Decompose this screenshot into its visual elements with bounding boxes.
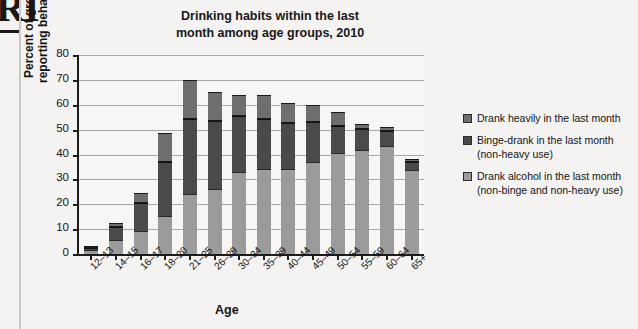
bar-segment-drank-heavily xyxy=(134,193,148,203)
bar-segment-drank-heavily xyxy=(183,80,197,118)
bar-series-layer xyxy=(79,55,424,254)
legend-label-line-2: (non-binge and non-heavy use) xyxy=(477,184,623,197)
page-root: RI Drinking habits within the last month… xyxy=(0,0,638,329)
y-tick-label: 40 xyxy=(56,147,69,159)
y-axis-title-line-2: reporting behavior xyxy=(36,0,50,95)
bar-group xyxy=(227,55,252,254)
legend-item[interactable]: Drank alcohol in the last month(non-bing… xyxy=(463,170,635,197)
bar-segment-drank-alcohol xyxy=(208,189,222,254)
bar-segment-binge-drank xyxy=(84,248,98,250)
bar-group xyxy=(178,55,203,254)
y-tick-mark xyxy=(73,254,79,256)
bar-group xyxy=(104,55,129,254)
y-tick-label: 60 xyxy=(56,97,69,109)
legend-label-line-1: Drank heavily in the last month xyxy=(477,112,621,125)
bar-segment-binge-drank xyxy=(232,116,246,172)
chart-title-line-1: Drinking habits within the last xyxy=(120,8,420,25)
bar-group xyxy=(153,55,178,254)
legend-swatch xyxy=(463,136,472,145)
y-tick-label: 20 xyxy=(56,196,69,208)
y-tick-label: 80 xyxy=(56,47,69,59)
bar-segment-drank-heavily xyxy=(158,133,172,162)
bar-group xyxy=(325,55,350,254)
bar-segment-drank-alcohol xyxy=(183,194,197,254)
y-axis-title-line-1: Percent of group xyxy=(22,0,36,95)
y-axis-title: Percent of group reporting behavior xyxy=(22,0,50,95)
bar-group xyxy=(375,55,400,254)
bar-segment-drank-heavily xyxy=(281,103,295,123)
y-tick-label: 30 xyxy=(56,171,69,183)
bar-segment-binge-drank xyxy=(183,119,197,195)
legend-label-line-1: Binge-drank in the last month xyxy=(477,134,614,147)
bar-segment-drank-alcohol xyxy=(306,162,320,254)
bar-segment-binge-drank xyxy=(281,123,295,169)
x-axis-title: Age xyxy=(215,303,239,317)
bar-segment-binge-drank xyxy=(355,129,369,150)
page-margin-rule xyxy=(19,0,21,329)
legend-label-line-2: (non-heavy use) xyxy=(477,148,614,161)
bar-group xyxy=(128,55,153,254)
bar-group xyxy=(252,55,277,254)
bar-segment-drank-alcohol xyxy=(331,153,345,254)
bar-segment-binge-drank xyxy=(306,122,320,163)
bar-segment-drank-heavily xyxy=(257,95,271,119)
bar-group xyxy=(79,55,104,254)
bar-segment-drank-alcohol xyxy=(380,146,394,254)
chart-title-line-2: month among age groups, 2010 xyxy=(120,25,420,42)
legend-item[interactable]: Drank heavily in the last month xyxy=(463,112,635,125)
bar-group xyxy=(202,55,227,254)
legend-item[interactable]: Binge-drank in the last month(non-heavy … xyxy=(463,134,635,161)
bar-segment-binge-drank xyxy=(380,131,394,146)
bar-segment-drank-heavily xyxy=(331,112,345,125)
legend-swatch xyxy=(463,114,472,123)
bar-segment-drank-heavily xyxy=(208,92,222,121)
y-tick-label: 0 xyxy=(63,246,69,258)
bar-segment-drank-heavily xyxy=(405,159,419,162)
y-tick-label: 50 xyxy=(56,122,69,134)
bar-segment-drank-heavily xyxy=(306,105,320,121)
bar-segment-drank-alcohol xyxy=(257,169,271,254)
bar-group xyxy=(399,55,424,254)
chart-legend: Drank heavily in the last monthBinge-dra… xyxy=(463,112,635,206)
bar-segment-binge-drank xyxy=(331,126,345,154)
bar-group xyxy=(276,55,301,254)
bar-group xyxy=(350,55,375,254)
legend-label: Drank heavily in the last month xyxy=(477,112,621,125)
bar-segment-drank-alcohol xyxy=(281,169,295,254)
bar-segment-drank-alcohol xyxy=(405,170,419,254)
y-tick-label: 10 xyxy=(56,221,69,233)
bar-segment-binge-drank xyxy=(405,162,419,170)
bar-segment-drank-heavily xyxy=(232,95,246,116)
y-tick-label: 70 xyxy=(56,72,69,84)
bar-segment-drank-alcohol xyxy=(355,150,369,254)
legend-swatch xyxy=(463,172,472,181)
bar-group xyxy=(301,55,326,254)
plot-area: 01020304050607080 12–1314–1516–1718–2021… xyxy=(77,55,424,256)
bar-segment-drank-alcohol xyxy=(232,172,246,254)
bar-segment-binge-drank xyxy=(208,121,222,189)
legend-label: Binge-drank in the last month(non-heavy … xyxy=(477,134,614,161)
bar-segment-drank-heavily xyxy=(84,246,98,248)
bar-segment-binge-drank xyxy=(109,227,123,240)
bar-segment-binge-drank xyxy=(257,119,271,169)
bar-segment-binge-drank xyxy=(158,162,172,216)
bar-segment-drank-heavily xyxy=(380,127,394,130)
bar-segment-drank-heavily xyxy=(355,124,369,129)
legend-label-line-1: Drank alcohol in the last month xyxy=(477,170,623,183)
legend-label: Drank alcohol in the last month(non-bing… xyxy=(477,170,623,197)
bar-segment-binge-drank xyxy=(134,203,148,231)
chart-title: Drinking habits within the last month am… xyxy=(120,8,420,41)
bar-segment-drank-heavily xyxy=(109,223,123,226)
